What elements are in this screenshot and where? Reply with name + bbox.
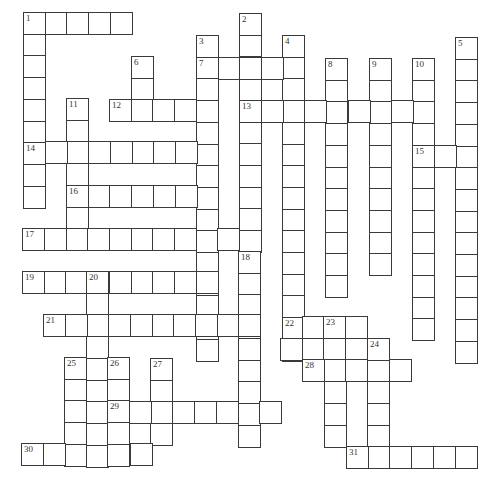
crossword-cell[interactable] bbox=[412, 297, 435, 320]
crossword-cell[interactable] bbox=[389, 446, 412, 469]
crossword-cell[interactable] bbox=[367, 381, 390, 404]
crossword-cell[interactable]: 12 bbox=[109, 99, 132, 122]
crossword-cell[interactable] bbox=[152, 228, 175, 251]
crossword-cell[interactable] bbox=[455, 446, 478, 469]
crossword-cell[interactable] bbox=[196, 122, 219, 145]
crossword-cell[interactable] bbox=[64, 400, 87, 423]
crossword-cell[interactable] bbox=[23, 34, 46, 57]
crossword-cell[interactable] bbox=[367, 403, 390, 426]
crossword-cell[interactable] bbox=[131, 78, 154, 101]
crossword-cell[interactable] bbox=[107, 444, 130, 467]
crossword-cell[interactable] bbox=[109, 228, 132, 251]
crossword-cell[interactable] bbox=[455, 254, 478, 277]
crossword-cell[interactable] bbox=[150, 401, 173, 424]
crossword-cell[interactable] bbox=[412, 210, 435, 233]
crossword-cell[interactable] bbox=[64, 379, 87, 402]
crossword-cell[interactable] bbox=[282, 187, 305, 210]
crossword-cell[interactable] bbox=[367, 360, 390, 383]
crossword-cell[interactable] bbox=[86, 401, 109, 424]
crossword-cell[interactable] bbox=[412, 80, 435, 103]
crossword-cell[interactable] bbox=[86, 336, 109, 359]
crossword-cell[interactable] bbox=[152, 99, 175, 122]
crossword-cell[interactable] bbox=[455, 124, 478, 147]
crossword-cell[interactable] bbox=[239, 35, 262, 58]
crossword-cell[interactable] bbox=[23, 164, 46, 187]
crossword-cell[interactable] bbox=[282, 57, 305, 80]
crossword-cell[interactable]: 20 bbox=[86, 271, 109, 294]
crossword-cell[interactable] bbox=[45, 141, 68, 164]
crossword-cell[interactable] bbox=[218, 57, 241, 80]
crossword-cell[interactable] bbox=[107, 379, 130, 402]
crossword-cell[interactable]: 30 bbox=[21, 443, 44, 466]
crossword-cell[interactable] bbox=[261, 57, 284, 80]
crossword-cell[interactable] bbox=[324, 359, 347, 382]
crossword-cell[interactable] bbox=[196, 209, 219, 232]
crossword-cell[interactable] bbox=[86, 423, 109, 446]
crossword-cell[interactable] bbox=[86, 380, 109, 403]
crossword-cell[interactable]: 21 bbox=[43, 314, 66, 337]
crossword-cell[interactable]: 2 bbox=[239, 13, 262, 36]
crossword-cell[interactable] bbox=[150, 380, 173, 403]
crossword-cell[interactable]: 19 bbox=[22, 271, 45, 294]
crossword-cell[interactable] bbox=[109, 185, 132, 208]
crossword-cell[interactable] bbox=[412, 275, 435, 298]
crossword-cell[interactable] bbox=[23, 77, 46, 100]
crossword-cell[interactable] bbox=[434, 145, 457, 168]
crossword-cell[interactable]: 10 bbox=[412, 58, 435, 81]
crossword-cell[interactable] bbox=[455, 189, 478, 212]
crossword-cell[interactable] bbox=[282, 252, 305, 275]
crossword-cell[interactable] bbox=[325, 210, 348, 233]
crossword-cell[interactable] bbox=[86, 445, 109, 468]
crossword-cell[interactable] bbox=[66, 12, 89, 35]
crossword-cell[interactable] bbox=[238, 273, 261, 296]
crossword-cell[interactable] bbox=[66, 207, 89, 230]
crossword-cell[interactable] bbox=[152, 271, 175, 294]
crossword-cell[interactable] bbox=[389, 359, 412, 382]
crossword-cell[interactable] bbox=[455, 211, 478, 234]
crossword-cell[interactable] bbox=[348, 100, 371, 123]
crossword-cell[interactable] bbox=[216, 401, 239, 424]
crossword-cell[interactable] bbox=[282, 144, 305, 167]
crossword-cell[interactable] bbox=[150, 423, 173, 446]
crossword-cell[interactable] bbox=[174, 99, 197, 122]
crossword-cell[interactable] bbox=[238, 338, 261, 361]
crossword-cell[interactable] bbox=[369, 253, 392, 276]
crossword-cell[interactable]: 27 bbox=[150, 358, 173, 381]
crossword-cell[interactable]: 6 bbox=[131, 56, 154, 79]
crossword-cell[interactable]: 29 bbox=[107, 400, 130, 423]
crossword-cell[interactable] bbox=[282, 165, 305, 188]
crossword-cell[interactable] bbox=[345, 338, 368, 361]
crossword-cell[interactable] bbox=[455, 232, 478, 255]
crossword-cell[interactable] bbox=[196, 187, 219, 210]
crossword-cell[interactable]: 25 bbox=[64, 357, 87, 380]
crossword-cell[interactable] bbox=[132, 141, 155, 164]
crossword-cell[interactable]: 9 bbox=[369, 58, 392, 81]
crossword-cell[interactable] bbox=[109, 271, 132, 294]
crossword-cell[interactable] bbox=[130, 314, 153, 337]
crossword-cell[interactable] bbox=[110, 12, 133, 35]
crossword-cell[interactable] bbox=[391, 100, 414, 123]
crossword-cell[interactable] bbox=[324, 425, 347, 448]
crossword-cell[interactable] bbox=[217, 228, 240, 251]
crossword-cell[interactable]: 26 bbox=[107, 357, 130, 380]
crossword-cell[interactable] bbox=[325, 188, 348, 211]
crossword-cell[interactable] bbox=[65, 271, 88, 294]
crossword-cell[interactable] bbox=[345, 316, 368, 339]
crossword-cell[interactable] bbox=[87, 228, 110, 251]
crossword-cell[interactable] bbox=[239, 208, 262, 231]
crossword-cell[interactable] bbox=[88, 185, 111, 208]
crossword-cell[interactable] bbox=[455, 146, 478, 169]
crossword-cell[interactable]: 8 bbox=[325, 58, 348, 81]
crossword-cell[interactable] bbox=[369, 123, 392, 146]
crossword-cell[interactable] bbox=[325, 80, 348, 103]
crossword-cell[interactable] bbox=[238, 403, 261, 426]
crossword-cell[interactable] bbox=[323, 338, 346, 361]
crossword-cell[interactable] bbox=[239, 187, 262, 210]
crossword-cell[interactable] bbox=[345, 359, 368, 382]
crossword-cell[interactable] bbox=[369, 80, 392, 103]
crossword-cell[interactable] bbox=[325, 123, 348, 146]
crossword-cell[interactable] bbox=[239, 122, 262, 145]
crossword-cell[interactable] bbox=[455, 319, 478, 342]
crossword-cell[interactable] bbox=[411, 446, 434, 469]
crossword-cell[interactable] bbox=[196, 165, 219, 188]
